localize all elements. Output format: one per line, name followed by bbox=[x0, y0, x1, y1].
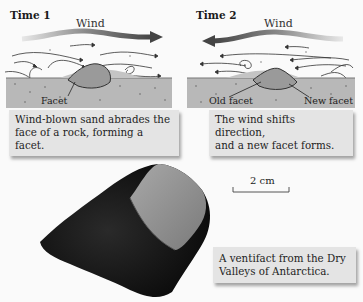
panel-2-caption-line2: and a new facet forms. bbox=[215, 139, 347, 152]
panel-2-caption: The wind shifts direction, and a new fac… bbox=[209, 110, 353, 156]
scale-bar bbox=[232, 187, 292, 195]
panel-2-title: Time 2 bbox=[196, 9, 237, 21]
panel-1-caption-line2: face of a rock, forming a facet. bbox=[15, 126, 173, 152]
panel-2-old-facet-label: Old facet bbox=[209, 95, 253, 106]
photo-caption: A ventifact from the Dry Valleys of Anta… bbox=[213, 247, 356, 283]
panel-1-facet-label: Facet bbox=[41, 95, 67, 106]
panel-2-new-facet-label: New facet bbox=[304, 95, 353, 106]
panel-1-caption: Wind-blown sand abrades the face of a ro… bbox=[9, 110, 179, 156]
scale-bar-label: 2 cm bbox=[250, 175, 275, 186]
panel-2-caption-line1: The wind shifts direction, bbox=[215, 113, 347, 139]
panel-1-diagram bbox=[0, 42, 180, 117]
photo-caption-line2: Valleys of Antarctica. bbox=[219, 265, 350, 278]
panel-1-title: Time 1 bbox=[10, 9, 51, 21]
ventifact-photo bbox=[30, 160, 220, 302]
photo-caption-line1: A ventifact from the Dry bbox=[219, 252, 350, 265]
panel-1-caption-line1: Wind-blown sand abrades the bbox=[15, 113, 173, 126]
